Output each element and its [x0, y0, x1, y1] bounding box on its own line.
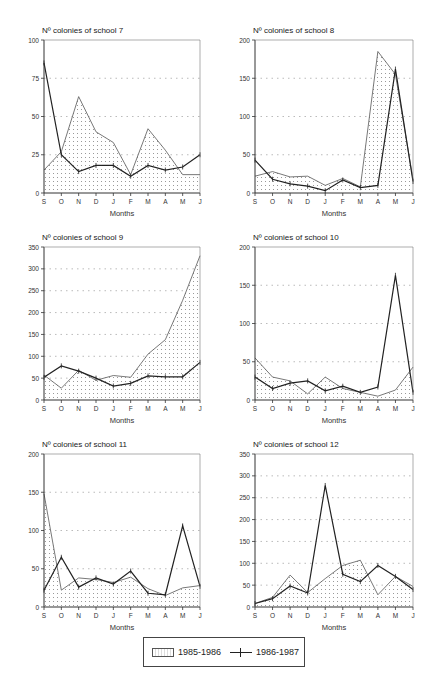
x-tick-label: O [59, 405, 64, 412]
x-tick-label: J [324, 405, 327, 412]
y-tick-label: 0 [246, 190, 250, 197]
chart-panel-6: Nº colonies of school 120501001502002503… [239, 440, 414, 632]
x-tick-label: M [358, 198, 363, 205]
x-tick-label: S [42, 612, 47, 619]
x-tick-label: A [163, 405, 168, 412]
x-tick-label: O [59, 612, 64, 619]
y-tick-label: 100 [239, 320, 250, 327]
y-tick-label: 150 [239, 282, 250, 289]
x-tick-label: F [129, 612, 133, 619]
x-tick-label: J [411, 405, 414, 412]
x-tick-label: J [112, 405, 115, 412]
series-line-1986-1987 [255, 275, 413, 392]
x-axis-label: Months [110, 623, 135, 632]
legend-item-1985-1986: 1985-1986 [152, 647, 221, 657]
y-tick-label: 0 [246, 397, 250, 404]
x-tick-label: J [198, 198, 201, 205]
x-tick-label: N [288, 612, 293, 619]
y-tick-label: 50 [243, 582, 251, 589]
x-tick-label: F [341, 612, 345, 619]
chart-panel-4: Nº colonies of school 10050100150200SOND… [239, 233, 414, 425]
y-tick-label: 100 [28, 527, 39, 534]
x-tick-label: A [163, 198, 168, 205]
x-tick-label: M [358, 612, 363, 619]
y-tick-label: 200 [239, 37, 250, 44]
y-tick-label: 150 [239, 538, 250, 545]
x-tick-label: J [411, 612, 414, 619]
x-tick-label: F [341, 198, 345, 205]
x-tick-label: N [288, 405, 293, 412]
y-tick-label: 100 [28, 353, 39, 360]
x-tick-label: A [376, 612, 381, 619]
x-tick-label: A [376, 405, 381, 412]
x-tick-label: M [180, 198, 185, 205]
x-tick-label: M [180, 405, 185, 412]
x-tick-label: M [393, 198, 398, 205]
x-tick-label: M [393, 405, 398, 412]
y-tick-label: 350 [239, 451, 250, 458]
y-tick-label: 150 [239, 75, 250, 82]
x-tick-label: M [358, 405, 363, 412]
y-tick-label: 50 [243, 151, 251, 158]
chart-title: Nº colonies of school 11 [42, 440, 128, 449]
y-tick-label: 0 [246, 604, 250, 611]
y-tick-label: 25 [32, 151, 40, 158]
x-tick-label: N [76, 198, 81, 205]
x-tick-label: O [270, 198, 275, 205]
x-tick-label: F [129, 405, 133, 412]
x-axis-label: Months [110, 416, 135, 425]
x-tick-label: D [305, 612, 310, 619]
y-tick-label: 75 [32, 75, 40, 82]
x-tick-label: S [253, 405, 258, 412]
x-tick-label: D [305, 198, 310, 205]
y-tick-label: 150 [28, 331, 39, 338]
y-tick-label: 50 [32, 113, 40, 120]
x-tick-label: J [324, 198, 327, 205]
series-area-1985-1986 [44, 97, 200, 193]
x-tick-label: O [270, 405, 275, 412]
charts-canvas: Nº colonies of school 70255075100SONDJFM… [0, 0, 439, 688]
y-tick-label: 200 [28, 309, 39, 316]
chart-title: Nº colonies of school 7 [42, 26, 124, 35]
x-tick-label: J [411, 198, 414, 205]
chart-panel-5: Nº colonies of school 11050100150200SOND… [28, 440, 201, 632]
chart-title: Nº colonies of school 12 [253, 440, 339, 449]
x-tick-label: J [324, 612, 327, 619]
x-tick-label: M [145, 405, 150, 412]
series-area-1985-1986 [255, 51, 413, 193]
x-tick-label: A [376, 198, 381, 205]
x-tick-label: S [42, 405, 47, 412]
y-tick-label: 300 [28, 265, 39, 272]
y-tick-label: 200 [239, 516, 250, 523]
y-tick-label: 50 [32, 565, 40, 572]
chart-legend: 1985-1986 1986-1987 [143, 637, 305, 667]
y-tick-label: 200 [28, 451, 39, 458]
legend-item-1986-1987: 1986-1987 [230, 647, 299, 657]
y-tick-label: 100 [239, 113, 250, 120]
chart-title: Nº colonies of school 9 [42, 233, 124, 242]
y-tick-label: 250 [28, 287, 39, 294]
y-tick-label: 150 [28, 489, 39, 496]
x-tick-label: N [76, 612, 81, 619]
y-tick-label: 300 [239, 472, 250, 479]
y-tick-label: 100 [239, 560, 250, 567]
chart-panel-3: Nº colonies of school 905010015020025030… [28, 233, 201, 425]
x-axis-label: Months [322, 416, 347, 425]
x-tick-label: J [112, 612, 115, 619]
x-tick-label: M [180, 612, 185, 619]
y-tick-label: 250 [239, 494, 250, 501]
x-tick-label: D [94, 612, 99, 619]
y-tick-label: 100 [28, 37, 39, 44]
x-tick-label: D [94, 405, 99, 412]
x-tick-label: M [145, 612, 150, 619]
chart-title: Nº colonies of school 10 [253, 233, 339, 242]
x-tick-label: N [288, 198, 293, 205]
shaded-box-icon [152, 648, 174, 657]
x-tick-label: F [129, 198, 133, 205]
chart-panel-2: Nº colonies of school 8050100150200SONDJ… [239, 26, 414, 218]
x-tick-label: D [94, 198, 99, 205]
y-tick-label: 350 [28, 244, 39, 251]
line-cross-icon [230, 648, 252, 657]
x-tick-label: M [145, 198, 150, 205]
y-tick-label: 200 [239, 244, 250, 251]
